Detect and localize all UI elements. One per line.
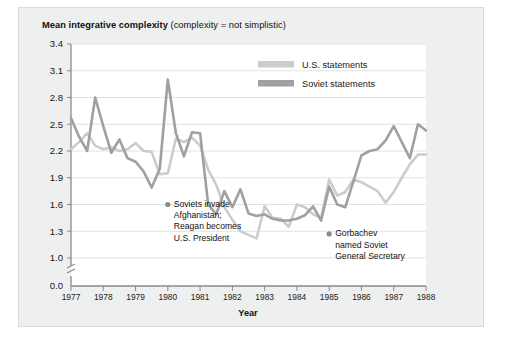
series-line-soviet-statements: [71, 80, 426, 221]
x-tick-label: 1978: [94, 292, 113, 302]
x-tick-label: 1980: [158, 292, 177, 302]
x-axis: 1977197819791980198119821983198419851986…: [62, 286, 436, 302]
y-tick-label: 2.8: [50, 92, 63, 103]
annotation-marker-gorbachev-named: [327, 231, 332, 236]
y-tick-label: 1.9: [50, 172, 63, 183]
legend: U.S. statementsSoviet statements: [258, 60, 375, 89]
legend-label-soviet: Soviet statements: [302, 79, 375, 89]
x-tick-label: 1981: [191, 292, 210, 302]
annotation-line: Afghanistan;: [174, 210, 222, 220]
annotation-line: Gorbachev: [335, 228, 378, 238]
y-tick-label: 1.0: [50, 252, 63, 263]
legend-swatch-soviet: [258, 80, 294, 87]
figure-root: Mean integrative complexity (complexity …: [0, 0, 510, 353]
x-tick-label: 1985: [320, 292, 339, 302]
legend-swatch-us: [258, 61, 294, 68]
y-tick-label: 3.4: [50, 38, 64, 49]
y-tick-label: 1.3: [50, 226, 63, 237]
y-tick-label: 2.2: [50, 145, 63, 156]
x-tick-label: 1987: [384, 292, 403, 302]
x-axis-title: Year: [238, 308, 258, 318]
y-axis-break-mark-1: [67, 269, 75, 273]
chart-svg: 3.43.12.82.52.21.91.61.31.00.0 197719781…: [0, 0, 510, 353]
annotations-layer: Soviets invadeAfghanistan;Reagan becomes…: [165, 199, 405, 261]
annotation-line: Reagan becomes: [174, 221, 241, 231]
x-tick-label: 1986: [352, 292, 371, 302]
y-tick-label: 1.6: [50, 199, 63, 210]
x-tick-label: 1988: [417, 292, 436, 302]
y-tick-label-zero: 0.0: [50, 280, 63, 291]
series-lines: [71, 80, 426, 239]
annotation-line: U.S. President: [174, 233, 230, 243]
x-tick-label: 1977: [62, 292, 81, 302]
x-tick-label: 1984: [288, 292, 307, 302]
y-tick-label: 2.5: [50, 119, 63, 130]
annotation-line: named Soviet: [335, 240, 388, 250]
annotation-line: Soviets invade: [174, 199, 230, 209]
x-tick-label: 1979: [126, 292, 145, 302]
annotation-marker-soviets-invade-afghanistan: [165, 202, 170, 207]
y-tick-label: 3.1: [50, 65, 63, 76]
legend-label-us: U.S. statements: [302, 60, 368, 70]
annotation-line: General Secretary: [335, 251, 405, 261]
x-tick-label: 1982: [223, 292, 242, 302]
y-axis: 3.43.12.82.52.21.91.61.31.00.0: [50, 38, 75, 291]
x-tick-label: 1983: [255, 292, 274, 302]
